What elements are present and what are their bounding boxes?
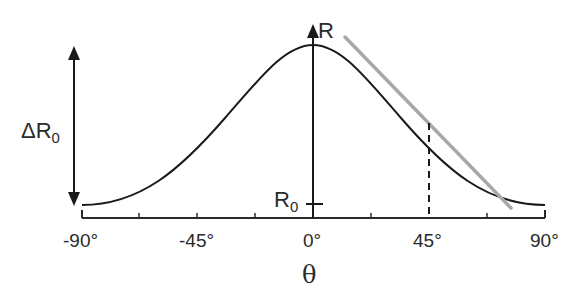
r0-label-main: R: [274, 187, 290, 212]
r-axis-label: R: [318, 18, 334, 44]
r0-label-sub: 0: [290, 198, 298, 215]
x-tick-label: -90°: [63, 230, 98, 252]
delta-r0-sub: 0: [52, 129, 60, 146]
x-tick-label: 90°: [530, 230, 559, 252]
x-axis-label: θ: [302, 261, 316, 289]
tangent-line: [345, 37, 511, 208]
delta-r0-arrow: [68, 46, 80, 206]
delta-r0-label: ΔR0: [21, 118, 60, 144]
arrow-up-icon: [68, 46, 80, 60]
diagram-canvas: [0, 0, 575, 304]
arrow-down-icon: [68, 192, 80, 206]
x-tick-label: -45°: [179, 230, 214, 252]
x-tick-label: 0°: [303, 230, 321, 252]
x-tick-label: 45°: [413, 230, 442, 252]
delta-r0-main: ΔR: [21, 118, 52, 143]
r-axis: [306, 24, 323, 218]
r0-label: R0: [274, 187, 298, 213]
